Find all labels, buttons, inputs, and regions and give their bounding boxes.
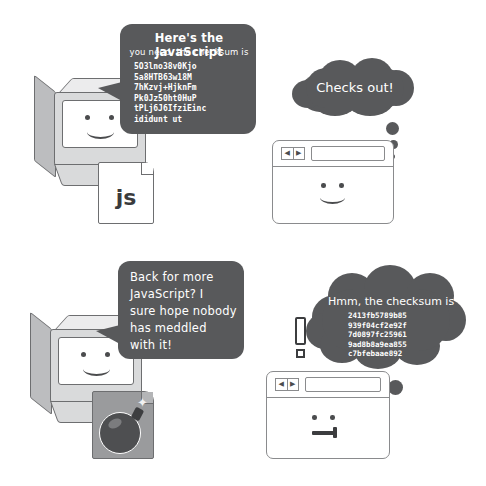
thought-text: Hmm, the checksum is: [328, 295, 452, 308]
bomb-highlight: [107, 416, 123, 430]
thought-text: Checks out!: [292, 80, 418, 95]
exclamation-stem: [295, 317, 306, 345]
page-label-js: js: [99, 185, 153, 210]
server-speech-bubble: Back for more JavaScript? I sure hope no…: [118, 261, 244, 359]
face-eye-right: [330, 415, 335, 420]
checksum-line-2: 5a8HTB63w18M: [134, 73, 192, 84]
screen-eye-right: [109, 115, 114, 120]
screen-smile: [87, 125, 114, 139]
browser-thought-bubble: Checks out!: [292, 58, 418, 120]
bomb-file-page: ✦: [92, 391, 154, 459]
face-mouth-tick: [333, 427, 337, 438]
speech-line-2: you need, the checksum is: [126, 47, 252, 57]
screen-eye-left: [85, 115, 90, 120]
speech-bubble-tail: [98, 82, 122, 101]
browser-thought-bubble: Hmm, the checksum is 2413fb5789b85 939f0…: [306, 265, 466, 377]
arrow-right-icon[interactable]: ▶: [294, 148, 305, 159]
checksum-line-5: c7bfebaae892: [348, 349, 402, 359]
browser-nav-buttons[interactable]: ◀ ▶: [275, 378, 299, 391]
panel-tampered-delivery: ✦ Back for more JavaScript? I sure hope …: [0, 243, 486, 486]
illustration-canvas: js Here's the JavaScript you need, the c…: [0, 0, 486, 486]
arrow-right-icon[interactable]: ▶: [288, 379, 299, 390]
browser-chrome: ◀ ▶: [273, 141, 393, 167]
speech-line-4: has meddled: [130, 321, 207, 335]
browser-window[interactable]: ◀ ▶: [272, 140, 394, 224]
face-eye-right: [339, 183, 344, 188]
browser-viewport: [267, 398, 389, 458]
arrow-left-icon[interactable]: ◀: [276, 379, 288, 390]
computer-side-face: [30, 312, 52, 415]
thought-dot-large: [388, 380, 403, 395]
computer-side-face: [34, 75, 56, 178]
screen-eye-left: [81, 352, 86, 357]
checksum-line-4: 9ad8b8a9ea855: [348, 340, 407, 350]
browser-url-bar[interactable]: [311, 146, 385, 161]
checksum-line-4: Pk0Jz50ht0HuP: [134, 94, 197, 105]
screen-eye-right: [105, 352, 110, 357]
screen-smile: [83, 362, 110, 376]
face-eye-left: [312, 415, 317, 420]
checksum-line-1: 2413fb5789b85: [348, 311, 407, 321]
server-speech-bubble: Here's the JavaScript you need, the chec…: [120, 24, 256, 134]
thought-dot-large: [386, 122, 399, 135]
checksum-line-6: ididunt ut: [134, 115, 182, 126]
page-fold-corner: [141, 163, 153, 175]
browser-viewport: [273, 167, 393, 223]
checksum-line-2: 939f04cf2e92f: [348, 321, 407, 331]
face-smile: [320, 191, 345, 204]
checksum-line-3: 7d0897fc25961: [348, 330, 407, 340]
checksum-line-1: 5O3lno38v0Kjo: [134, 62, 197, 73]
speech-line-3: sure hope nobody: [130, 304, 237, 318]
panel-honest-delivery: js Here's the JavaScript you need, the c…: [0, 0, 486, 243]
browser-chrome: ◀ ▶: [267, 372, 389, 398]
arrow-left-icon[interactable]: ◀: [282, 148, 294, 159]
exclamation-dot: [296, 349, 305, 358]
checksum-line-3: 7hKzvj+HjknFm: [134, 83, 197, 94]
speech-bubble-tail: [96, 325, 120, 344]
checksum-line-5: tPLj6J6IfziEinc: [134, 104, 206, 115]
javascript-file-page: js: [98, 162, 154, 224]
bomb-spark-icon: ✦: [137, 396, 148, 409]
browser-nav-buttons[interactable]: ◀ ▶: [281, 147, 305, 160]
speech-line-1: Back for more: [130, 270, 213, 284]
face-eye-left: [321, 183, 326, 188]
browser-window[interactable]: ◀ ▶: [266, 371, 390, 459]
speech-line-5: with it!: [130, 338, 172, 352]
browser-url-bar[interactable]: [305, 377, 381, 392]
speech-line-2: JavaScript? I: [130, 287, 203, 301]
